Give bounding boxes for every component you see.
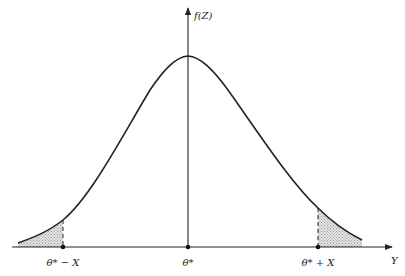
y-axis-label: f(Z)	[193, 10, 213, 21]
center-tick-label: θ*	[182, 257, 193, 268]
x-axis-label: Y	[391, 255, 399, 266]
left-tick-label: θ* − X	[47, 257, 81, 268]
right-tick-label: θ* + X	[302, 257, 336, 268]
center-tick-point	[186, 245, 191, 250]
left-tick-point	[61, 245, 66, 250]
density-curve	[18, 56, 362, 243]
normal-curve-diagram: f(Z) Y θ* − X θ* θ* + X	[0, 0, 405, 276]
right-tick-point	[316, 245, 321, 250]
